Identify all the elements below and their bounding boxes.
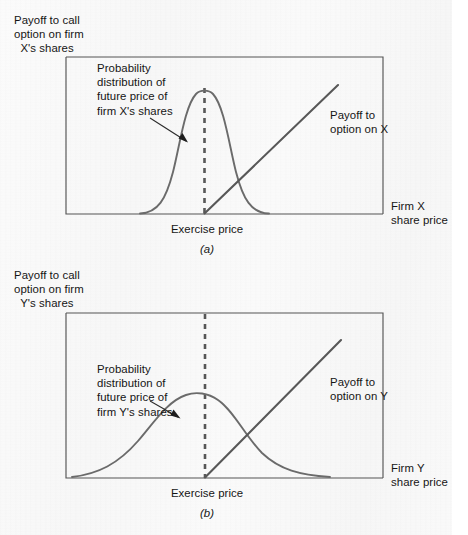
panel-b-y-axis-title: Payoff to call option on firm Y's shares (14, 268, 84, 311)
panel-a-payoff-label: Payoff to option on X (330, 108, 388, 136)
panel-a-payoff-line (205, 85, 339, 214)
panel-a-letter: (a) (200, 242, 214, 256)
panel-b-distribution-label: Probability distribution of future price… (97, 362, 173, 419)
panel-b-exercise-price-label: Exercise price (152, 486, 262, 500)
page-right-margin (452, 0, 468, 535)
panel-a-x-axis-title: Firm X share price (391, 199, 448, 227)
panel-b-x-axis-title: Firm Y share price (391, 461, 448, 489)
panel-b-payoff-label: Payoff to option on Y (330, 375, 388, 403)
panel-a-distribution-label: Probability distribution of future price… (97, 61, 173, 118)
panel-b-letter: (b) (200, 506, 214, 520)
panel-b-payoff-line (205, 340, 341, 478)
panel-a-exercise-price-label: Exercise price (152, 222, 262, 236)
panel-a-y-axis-title: Payoff to call option on firm X's shares (14, 13, 84, 56)
figure-container: Payoff to call option on firm X's shares… (0, 0, 468, 535)
